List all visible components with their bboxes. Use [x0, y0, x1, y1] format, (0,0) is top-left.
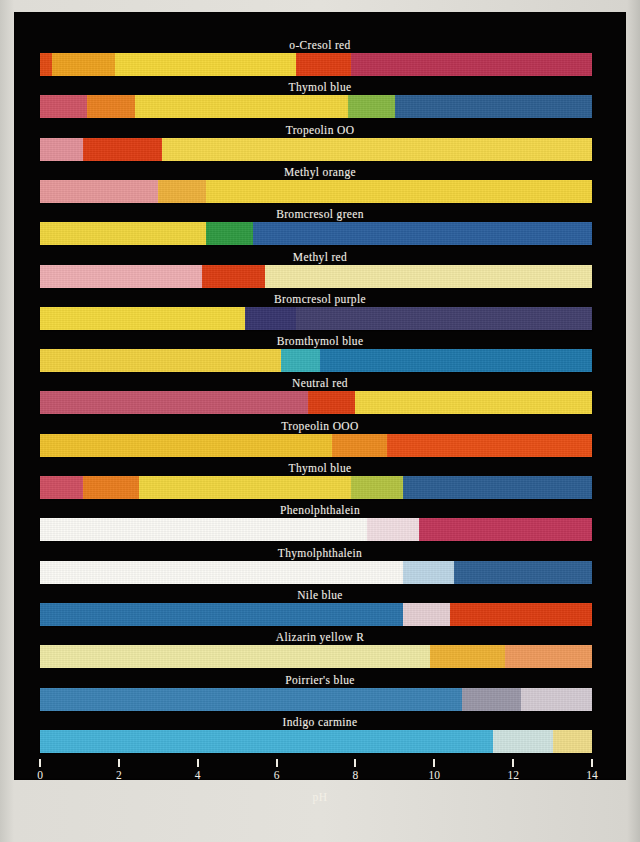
- indicator-name-label: Indigo carmine: [14, 715, 626, 729]
- color-segment: [521, 688, 592, 711]
- indicator-row: Indigo carmine: [14, 715, 626, 757]
- axis-tick-label: 2: [104, 769, 134, 782]
- indicator-row: Bromcresol purple: [14, 292, 626, 334]
- indicator-row: Phenolphthalein: [14, 503, 626, 545]
- color-segment: [206, 222, 253, 245]
- color-segment: [83, 476, 138, 499]
- indicator-color-bar: [40, 265, 592, 288]
- indicator-row: Alizarin yellow R: [14, 630, 626, 672]
- axis-tick-label: 10: [419, 769, 449, 782]
- axis-tick-label: 6: [262, 769, 292, 782]
- axis-tick-label: 4: [183, 769, 213, 782]
- color-segment: [430, 645, 505, 668]
- indicator-name-label: Bromthymol blue: [14, 334, 626, 348]
- color-segment: [40, 180, 158, 203]
- color-segment: [40, 730, 493, 753]
- color-segment: [139, 476, 352, 499]
- axis-tick: [433, 759, 435, 767]
- color-segment: [87, 95, 134, 118]
- color-segment: [419, 518, 592, 541]
- ph-axis: 02468101214: [14, 759, 626, 793]
- color-segment: [253, 222, 592, 245]
- axis-tick: [197, 759, 199, 767]
- indicator-color-bar: [40, 53, 592, 76]
- color-segment: [265, 265, 592, 288]
- indicator-color-bar: [40, 688, 592, 711]
- indicator-color-bar: [40, 222, 592, 245]
- page-background: o-Cresol redThymol blueTropeolin OOMethy…: [0, 0, 640, 842]
- color-segment: [403, 476, 592, 499]
- color-segment: [454, 561, 592, 584]
- indicator-name-label: Poirrier's blue: [14, 673, 626, 687]
- indicator-color-bar: [40, 434, 592, 457]
- color-segment: [505, 645, 592, 668]
- axis-title: pH: [14, 791, 626, 803]
- color-segment: [115, 53, 296, 76]
- color-segment: [40, 688, 462, 711]
- color-segment: [351, 53, 592, 76]
- color-segment: [40, 391, 308, 414]
- indicator-color-bar: [40, 518, 592, 541]
- ph-indicator-chart-plate: o-Cresol redThymol blueTropeolin OOMethy…: [14, 12, 626, 780]
- color-segment: [202, 265, 265, 288]
- indicator-name-label: Methyl orange: [14, 165, 626, 179]
- color-segment: [40, 307, 245, 330]
- indicator-row: Poirrier's blue: [14, 673, 626, 715]
- color-segment: [403, 603, 450, 626]
- indicator-color-bar: [40, 307, 592, 330]
- color-segment: [355, 391, 592, 414]
- color-segment: [281, 349, 320, 372]
- color-segment: [40, 222, 206, 245]
- indicator-row: Neutral red: [14, 376, 626, 418]
- indicator-color-bar: [40, 349, 592, 372]
- indicator-color-bar: [40, 391, 592, 414]
- indicator-row: Thymol blue: [14, 461, 626, 503]
- color-segment: [40, 138, 83, 161]
- indicator-name-label: Nile blue: [14, 588, 626, 602]
- indicator-name-label: Alizarin yellow R: [14, 630, 626, 644]
- color-segment: [387, 434, 592, 457]
- color-segment: [351, 476, 402, 499]
- color-segment: [348, 95, 395, 118]
- indicator-name-label: Thymolphthalein: [14, 546, 626, 560]
- indicator-row: Bromcresol green: [14, 207, 626, 249]
- color-segment: [308, 391, 355, 414]
- axis-tick: [118, 759, 120, 767]
- color-segment: [40, 95, 87, 118]
- color-segment: [296, 53, 351, 76]
- color-segment: [395, 95, 592, 118]
- indicator-name-label: Phenolphthalein: [14, 503, 626, 517]
- indicator-row: Nile blue: [14, 588, 626, 630]
- indicator-row: Tropeolin OO: [14, 123, 626, 165]
- indicator-chart: o-Cresol redThymol blueTropeolin OOMethy…: [14, 12, 626, 780]
- indicator-color-bar: [40, 476, 592, 499]
- axis-tick: [39, 759, 41, 767]
- indicator-color-bar: [40, 138, 592, 161]
- indicator-name-label: Bromcresol green: [14, 207, 626, 221]
- color-segment: [493, 730, 552, 753]
- color-segment: [450, 603, 592, 626]
- indicator-name-label: Methyl red: [14, 250, 626, 264]
- indicator-name-label: o-Cresol red: [14, 38, 626, 52]
- color-segment: [158, 180, 205, 203]
- indicator-name-label: Thymol blue: [14, 461, 626, 475]
- indicator-name-label: Tropeolin OOO: [14, 419, 626, 433]
- indicator-color-bar: [40, 180, 592, 203]
- indicator-color-bar: [40, 603, 592, 626]
- color-segment: [40, 518, 367, 541]
- color-segment: [462, 688, 521, 711]
- indicator-color-bar: [40, 645, 592, 668]
- color-segment: [135, 95, 348, 118]
- indicator-row: Thymol blue: [14, 80, 626, 122]
- indicator-color-bar: [40, 561, 592, 584]
- indicator-name-label: Tropeolin OO: [14, 123, 626, 137]
- color-segment: [553, 730, 592, 753]
- color-segment: [40, 265, 202, 288]
- indicator-color-bar: [40, 730, 592, 753]
- color-segment: [206, 180, 592, 203]
- indicator-row: o-Cresol red: [14, 38, 626, 80]
- axis-tick: [354, 759, 356, 767]
- color-segment: [367, 518, 418, 541]
- color-segment: [296, 307, 592, 330]
- color-segment: [52, 53, 115, 76]
